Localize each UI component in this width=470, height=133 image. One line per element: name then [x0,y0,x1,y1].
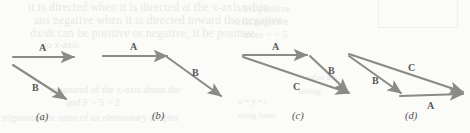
panel-label-d: (d) [405,111,417,122]
vector-arrow-a-b [13,65,66,99]
vector-label-d-c: C [408,63,415,73]
vector-arrow-d-a [400,94,463,96]
vector-label-c-c: C [293,82,300,92]
panel-label-b: (b) [152,111,164,122]
vector-label-d-a: A [427,101,434,111]
vector-diagram-svg [0,0,470,133]
vector-label-d-b: B [372,76,379,86]
vector-label-c-b: B [328,66,335,76]
panel-label-c: (c) [292,111,304,122]
panel-label-a: (a) [36,112,48,123]
vector-addition-figure: it is directed when it is directed at th… [0,0,470,133]
vector-label-c-a: A [272,42,279,52]
vector-label-a-a: A [39,43,46,53]
vector-label-b-a: A [130,42,137,52]
vector-label-a-b: B [32,83,39,93]
vector-label-b-b: B [192,68,199,78]
vector-arrow-d-c [349,54,463,92]
